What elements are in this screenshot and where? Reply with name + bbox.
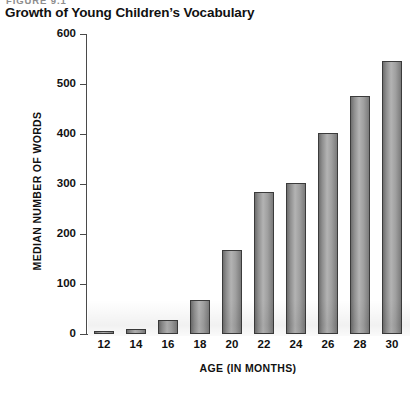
bar-slot xyxy=(88,34,120,334)
x-tick-label: 16 xyxy=(152,338,184,350)
y-tick-label: 100 xyxy=(16,277,76,289)
y-tick-label: 400 xyxy=(16,127,76,139)
bar xyxy=(190,300,210,334)
bar-slot xyxy=(248,34,280,334)
bar-slot xyxy=(312,34,344,334)
bar xyxy=(350,96,370,334)
y-tick-mark xyxy=(80,334,86,335)
x-tick-label: 12 xyxy=(88,338,120,350)
bar-slot xyxy=(280,34,312,334)
y-axis-title: MEDIAN NUMBER OF WORDS xyxy=(31,96,43,286)
bar xyxy=(94,331,114,334)
y-tick-label: 0 xyxy=(16,327,76,339)
y-tick-label: 500 xyxy=(16,77,76,89)
x-tick-label: 24 xyxy=(280,338,312,350)
y-tick-label: 200 xyxy=(16,227,76,239)
y-tick-label: 600 xyxy=(16,27,76,39)
y-tick-mark xyxy=(80,234,86,235)
bar xyxy=(286,183,306,334)
x-axis-line xyxy=(86,334,88,335)
y-tick-label: 300 xyxy=(16,177,76,189)
bar xyxy=(222,250,242,334)
bar-slot xyxy=(376,34,408,334)
y-tick-mark xyxy=(80,84,86,85)
y-tick-mark xyxy=(80,34,86,35)
x-axis-ticks: 12141618202224262830 xyxy=(88,338,408,356)
bar-slot xyxy=(152,34,184,334)
bar xyxy=(126,329,146,334)
x-tick-label: 26 xyxy=(312,338,344,350)
bar-slot xyxy=(120,34,152,334)
x-tick-label: 20 xyxy=(216,338,248,350)
chart-plot-area: 0100200300400500600 MEDIAN NUMBER OF WOR… xyxy=(0,0,416,393)
x-tick-label: 14 xyxy=(120,338,152,350)
bar-slot xyxy=(184,34,216,334)
y-axis-line xyxy=(86,34,87,335)
x-tick-label: 30 xyxy=(376,338,408,350)
bar xyxy=(318,133,338,334)
y-tick-mark xyxy=(80,134,86,135)
y-tick-mark xyxy=(80,184,86,185)
x-tick-label: 28 xyxy=(344,338,376,350)
bar-series xyxy=(88,34,408,334)
x-tick-label: 18 xyxy=(184,338,216,350)
bar xyxy=(382,61,402,334)
bar-slot xyxy=(216,34,248,334)
x-axis-title: AGE (IN MONTHS) xyxy=(88,362,408,374)
bar xyxy=(158,320,178,334)
x-tick-label: 22 xyxy=(248,338,280,350)
y-tick-mark xyxy=(80,284,86,285)
bar-slot xyxy=(344,34,376,334)
bar xyxy=(254,192,274,335)
